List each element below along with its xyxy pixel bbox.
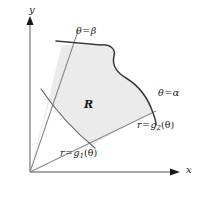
- label-theta-equals-alpha: θ=α: [158, 88, 179, 98]
- equals-sign-g1: =: [65, 147, 74, 158]
- label-r-equals-g1: r=g1(θ): [60, 148, 97, 160]
- x-axis-arrowhead: [170, 168, 180, 175]
- r-symbol-g1: r: [60, 147, 65, 158]
- equals-sign-beta: =: [82, 25, 91, 36]
- label-theta-equals-beta: θ=β: [76, 26, 96, 36]
- beta-symbol: β: [91, 25, 97, 36]
- alpha-symbol: α: [173, 87, 179, 98]
- theta-symbol-alpha: θ: [158, 87, 164, 98]
- label-r-equals-g2: r=g2(θ): [137, 120, 174, 132]
- equals-sign-g2: =: [142, 119, 151, 130]
- region-label-R: R: [84, 99, 93, 110]
- y-axis-arrowhead: [26, 16, 33, 25]
- polar-region-figure: y x R θ=β θ=α r=g2(θ) r=g1(θ): [0, 0, 205, 198]
- r-symbol-g2: r: [137, 119, 142, 130]
- equals-sign-alpha: =: [164, 87, 173, 98]
- theta-symbol-beta: θ: [76, 25, 82, 36]
- y-axis-label: y: [29, 5, 35, 15]
- figure-canvas: [0, 0, 205, 198]
- x-axis-label: x: [186, 165, 192, 175]
- theta-argument-g2: (θ): [161, 119, 174, 130]
- theta-argument-g1: (θ): [84, 147, 97, 158]
